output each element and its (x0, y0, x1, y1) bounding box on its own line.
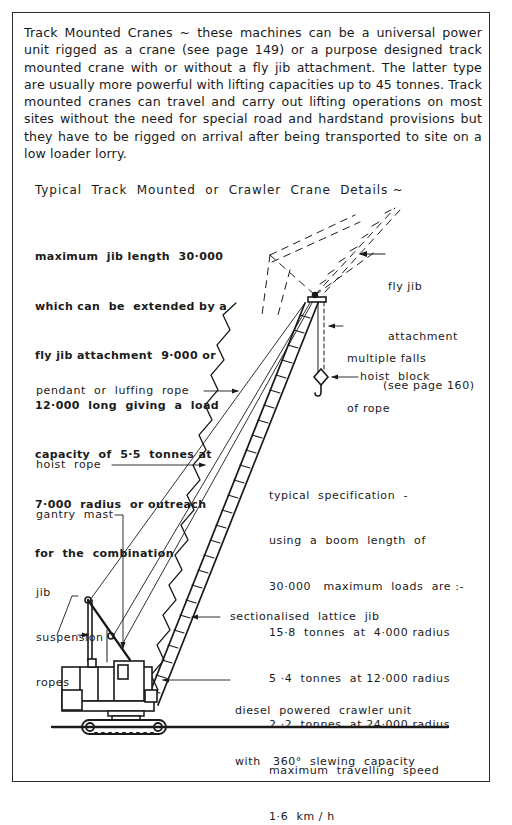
label-line: fly jib (388, 279, 475, 296)
label-jib-suspension: jib suspension ropes (36, 555, 104, 705)
label-hoist-rope: hoist rope (36, 457, 101, 474)
spec-line: 2 ·2 tonnes at 24·000 radius (269, 717, 464, 732)
label-line: of rope (347, 401, 426, 418)
spec-line: maximum travelling speed (269, 763, 464, 778)
hoist-falls (318, 302, 324, 372)
label-gantry-mast: gantry mast (36, 507, 114, 524)
label-pendant-rope: pendant or luffing rope (36, 383, 189, 400)
slewing-ring (108, 711, 144, 720)
jib-head (308, 293, 326, 303)
spec-line: 15·8 tonnes at 4·000 radius (269, 625, 464, 640)
spec-line: 5 ·4 tonnes at 12·000 radius (269, 671, 464, 686)
label-line: ropes (36, 675, 104, 690)
spec-line: typical specification - (269, 488, 464, 503)
label-line: suspension (36, 630, 104, 645)
spec-line: 30·000 maximum loads are :- (269, 579, 464, 594)
fly-jib-dashed (262, 208, 400, 315)
hoist-block (314, 369, 328, 396)
spec-line: 1·6 km / h (269, 809, 464, 824)
label-line: multiple falls (347, 351, 426, 368)
label-line: jib (36, 585, 104, 600)
spec-line: using a boom length of (269, 533, 464, 548)
label-hoist-block: hoist block (360, 369, 430, 386)
fly-jib-lattice-ticks (320, 210, 391, 284)
typical-specification: typical specification - using a boom len… (269, 457, 464, 825)
